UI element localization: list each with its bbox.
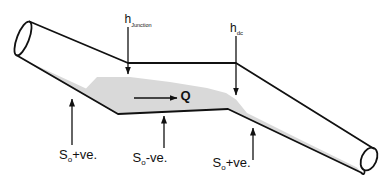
left-pipe-end-ellipse: [11, 20, 35, 58]
pipe-top-outline: [30, 22, 374, 149]
right-pipe-end-ellipse: [357, 145, 380, 173]
slope-right-label: So+ve.: [213, 155, 251, 172]
slope-left-label: So+ve.: [59, 147, 97, 164]
slope-middle-label: So-ve.: [133, 150, 168, 167]
h-dc-label: hdc: [230, 21, 243, 37]
flow-label: Q: [181, 88, 191, 103]
pipe-junction-figure: hJunction hdc Q So+ve. So-ve. So+ve.: [0, 0, 389, 192]
h-junction-label: hJunction: [125, 12, 152, 28]
pipe-junction-diagram: hJunction hdc Q So+ve. So-ve. So+ve.: [0, 0, 389, 192]
